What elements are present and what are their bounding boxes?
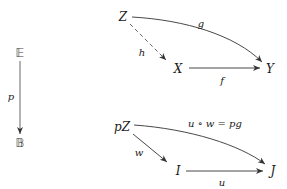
label-p: p (8, 92, 14, 102)
object-X: X (174, 63, 183, 75)
diagram-arrows (0, 0, 287, 189)
object-I: I (176, 165, 181, 177)
object-B: 𝔹 (16, 137, 25, 149)
label-u: u (219, 178, 225, 188)
label-composite: u ∘ w = pg (188, 119, 242, 129)
object-Z: Z (119, 11, 127, 23)
object-J: J (271, 165, 276, 177)
object-pZ: pZ (114, 121, 130, 133)
object-E: 𝔼 (16, 47, 25, 59)
arrow-composite (134, 125, 265, 164)
label-h: h (139, 48, 145, 58)
arrow-h-dashed (130, 24, 166, 60)
commutative-diagram: 𝔼 p 𝔹 Z g h X f Y pZ u ∘ w = pg w I u J (0, 0, 287, 189)
label-w: w (135, 148, 144, 158)
object-Y: Y (266, 63, 274, 75)
label-g: g (198, 19, 204, 29)
label-f: f (220, 76, 224, 86)
